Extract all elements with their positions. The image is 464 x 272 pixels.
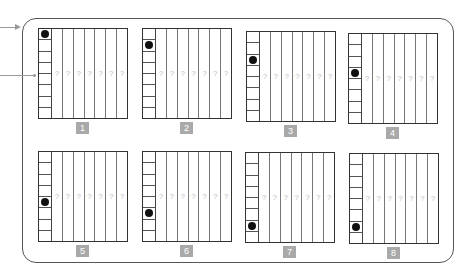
value-column: ? — [167, 29, 178, 118]
value-column: ? — [63, 29, 74, 118]
cell — [39, 97, 51, 108]
cell — [143, 208, 155, 219]
cell — [143, 175, 155, 186]
question-mark: ? — [281, 193, 291, 203]
dot-marker-icon — [145, 41, 153, 49]
panel-number-label: 8 — [387, 247, 400, 259]
grid: ??????? — [349, 153, 439, 244]
value-column: ? — [199, 29, 210, 118]
value-column: ? — [325, 32, 335, 121]
value-column: ? — [282, 32, 293, 121]
question-mark: ? — [282, 72, 292, 82]
question-mark: ? — [117, 69, 127, 79]
dot-marker-icon — [145, 209, 153, 217]
question-mark: ? — [293, 72, 303, 82]
question-mark: ? — [302, 193, 312, 203]
question-mark: ? — [85, 192, 95, 202]
question-mark: ? — [210, 69, 220, 79]
question-mark: ? — [63, 69, 73, 79]
value-column: ? — [156, 152, 167, 241]
question-mark: ? — [74, 192, 84, 202]
value-column: ? — [427, 34, 437, 123]
question-mark: ? — [259, 193, 269, 203]
panel-8: ???????8 — [349, 153, 439, 244]
question-mark: ? — [178, 69, 188, 79]
cell — [143, 97, 155, 108]
cell — [349, 79, 361, 90]
cell — [350, 188, 362, 199]
cell — [143, 74, 155, 85]
question-mark: ? — [313, 193, 323, 203]
value-column: ? — [106, 152, 117, 241]
cell — [349, 102, 361, 113]
question-mark: ? — [270, 193, 280, 203]
value-column: ? — [74, 152, 85, 241]
first-column — [246, 153, 259, 242]
cell — [39, 186, 51, 197]
cell — [246, 164, 258, 175]
value-column: ? — [417, 154, 428, 243]
value-column: ? — [292, 153, 303, 242]
grid: ??????? — [246, 31, 336, 122]
cell — [349, 57, 361, 68]
grid: ??????? — [142, 28, 232, 119]
panel-4: ???????4 — [348, 33, 438, 124]
question-mark: ? — [199, 69, 209, 79]
grid: ??????? — [142, 151, 232, 242]
question-mark: ? — [63, 192, 73, 202]
cell — [39, 208, 51, 219]
cell — [247, 55, 259, 66]
panel-2: ???????2 — [142, 28, 232, 119]
cell — [246, 176, 258, 187]
cell — [246, 209, 258, 220]
question-mark: ? — [271, 72, 281, 82]
dot-marker-icon — [41, 198, 49, 206]
value-column: ? — [374, 154, 385, 243]
question-mark: ? — [292, 193, 302, 203]
value-column: ? — [293, 32, 304, 121]
cell — [39, 52, 51, 63]
panel-number-label: 7 — [283, 246, 296, 258]
grid: ??????? — [245, 152, 335, 243]
value-column: ? — [395, 34, 406, 123]
value-column: ? — [199, 152, 210, 241]
question-mark: ? — [362, 74, 372, 84]
cell — [143, 85, 155, 96]
first-column — [349, 34, 362, 123]
panel-number-label: 6 — [180, 245, 193, 257]
cell — [39, 220, 51, 231]
cell — [143, 163, 155, 174]
value-column: ? — [314, 32, 325, 121]
cell — [143, 29, 155, 40]
value-column: ? — [106, 29, 117, 118]
cell — [247, 32, 259, 43]
question-mark: ? — [167, 192, 177, 202]
value-column: ? — [260, 32, 271, 121]
question-mark: ? — [406, 194, 416, 204]
question-mark: ? — [325, 72, 335, 82]
question-mark: ? — [385, 194, 395, 204]
question-mark: ? — [324, 193, 334, 203]
value-column: ? — [373, 34, 384, 123]
value-column: ? — [362, 34, 373, 123]
value-column: ? — [167, 152, 178, 241]
cell — [143, 152, 155, 163]
value-column: ? — [210, 29, 221, 118]
value-column: ? — [385, 154, 396, 243]
question-mark: ? — [106, 69, 116, 79]
cell — [143, 40, 155, 51]
cell — [39, 29, 51, 40]
cell — [39, 175, 51, 186]
cell — [39, 108, 51, 118]
value-column: ? — [52, 29, 63, 118]
cell — [247, 77, 259, 88]
question-mark: ? — [156, 69, 166, 79]
first-column — [143, 29, 156, 118]
panel-7: ???????7 — [245, 152, 335, 243]
question-mark: ? — [314, 72, 324, 82]
first-column — [247, 32, 260, 121]
value-column: ? — [221, 29, 231, 118]
question-mark: ? — [52, 69, 62, 79]
value-column: ? — [405, 34, 416, 123]
cell — [246, 187, 258, 198]
